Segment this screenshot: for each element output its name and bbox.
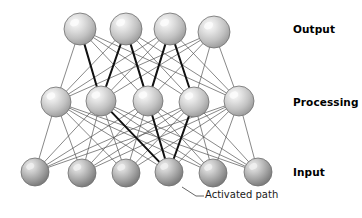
neural-network-diagram: Output Processing Input Activated path [0, 0, 362, 218]
connection [111, 40, 160, 91]
node-sphere [244, 158, 272, 186]
node-i5 [199, 159, 227, 187]
node-p3 [133, 86, 163, 116]
connection [198, 116, 210, 161]
node-i4 [155, 158, 183, 186]
connection [219, 46, 234, 88]
node-o4 [198, 16, 230, 48]
activated-connection [175, 43, 190, 88]
node-sphere [224, 86, 254, 116]
connection [243, 115, 255, 160]
node-i1 [21, 158, 49, 186]
node-p4 [179, 87, 209, 117]
layer-label-output: Output [293, 23, 335, 35]
node-sphere [198, 16, 230, 48]
network-nodes [21, 13, 272, 187]
node-o2 [110, 13, 142, 45]
node-p2 [86, 86, 116, 116]
node-sphere [68, 159, 96, 187]
annotation-leader-line [182, 187, 204, 196]
node-sphere [64, 13, 96, 45]
connection [203, 112, 249, 162]
node-p1 [41, 87, 71, 117]
activated-connection [173, 115, 189, 160]
connection [68, 109, 158, 165]
node-sphere [199, 159, 227, 187]
node-sphere [179, 87, 209, 117]
activated-connection [84, 43, 97, 87]
leader-line [182, 187, 204, 196]
node-i2 [68, 159, 96, 187]
node-i6 [244, 158, 272, 186]
activated-path-annotation: Activated path [205, 189, 278, 200]
node-i3 [112, 159, 140, 187]
node-sphere [155, 158, 183, 186]
node-p5 [224, 86, 254, 116]
connection [60, 43, 75, 88]
node-sphere [154, 13, 186, 45]
node-sphere [86, 86, 116, 116]
node-o3 [154, 13, 186, 45]
connection [217, 114, 234, 161]
layer-label-processing: Processing [293, 96, 359, 108]
node-sphere [112, 159, 140, 187]
node-o1 [64, 13, 96, 45]
connection [198, 46, 210, 88]
connection [66, 112, 117, 164]
node-sphere [41, 87, 71, 117]
layer-label-input: Input [293, 166, 325, 178]
node-sphere [110, 13, 142, 45]
connection [39, 115, 52, 159]
node-sphere [21, 158, 49, 186]
node-sphere [133, 86, 163, 116]
activated-connection [106, 43, 121, 88]
